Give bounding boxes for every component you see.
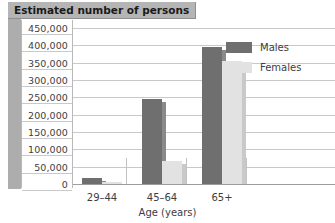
legend-item-females: Females <box>226 62 301 73</box>
y-label-separator <box>22 86 72 87</box>
bar-face <box>202 47 222 184</box>
y-axis-tick-label: 50,000 <box>34 161 68 172</box>
bar-face <box>82 178 102 184</box>
chart-title: Estimated number of persons <box>8 2 196 19</box>
x-axis-tick-label: 65+ <box>211 192 232 203</box>
category-separator <box>186 158 187 184</box>
legend-swatch-icon <box>226 42 252 53</box>
y-label-separator <box>22 69 72 70</box>
category-separator <box>126 158 127 184</box>
bar-face <box>162 161 182 184</box>
x-axis-tick-label: 29–44 <box>87 192 117 203</box>
x-axis-title: Age (years) <box>0 207 335 218</box>
y-axis-labels: 450,000400,000350,000300,000250,000200,0… <box>21 20 73 188</box>
y-label-separator <box>22 51 72 52</box>
y-label-separator <box>22 138 72 139</box>
y-axis-tick-label: 250,000 <box>28 92 68 103</box>
legend-item-males: Males <box>226 42 301 53</box>
chart-title-text: Estimated number of persons <box>14 4 189 16</box>
y-axis-tick-label: 200,000 <box>28 109 68 120</box>
legend-label: Females <box>260 62 301 73</box>
y-axis-tick-label: 350,000 <box>28 57 68 68</box>
bar-females-1 <box>162 161 182 184</box>
legend-swatch-icon <box>226 62 252 73</box>
y-axis-tick-label: 450,000 <box>28 23 68 34</box>
y-label-separator <box>22 121 72 122</box>
y-label-separator <box>22 34 72 35</box>
bar-face <box>102 182 122 184</box>
y-axis-tick-label: 400,000 <box>28 40 68 51</box>
bar-face <box>142 99 162 184</box>
x-axis-tick-label: 45–64 <box>147 192 177 203</box>
bar-males-1 <box>142 99 162 184</box>
gridline <box>72 28 335 29</box>
y-label-separator <box>22 173 72 174</box>
y-axis-tick-label: 100,000 <box>28 144 68 155</box>
bar-males-2 <box>202 47 222 184</box>
category-separator <box>246 158 247 184</box>
bar-males-0 <box>82 178 102 184</box>
gridline <box>72 184 335 185</box>
chart-legend: MalesFemales <box>226 42 301 82</box>
y-label-separator <box>22 103 72 104</box>
bar-chart: Estimated number of persons 450,000400,0… <box>0 0 335 223</box>
y-axis-tick-label: 0 <box>62 179 68 190</box>
left-gray-band <box>8 2 21 189</box>
y-axis-tick-label: 300,000 <box>28 75 68 86</box>
legend-label: Males <box>260 42 289 53</box>
y-axis-tick-label: 150,000 <box>28 127 68 138</box>
y-label-separator <box>22 190 72 191</box>
y-label-separator <box>22 155 72 156</box>
bar-females-0 <box>102 182 122 184</box>
